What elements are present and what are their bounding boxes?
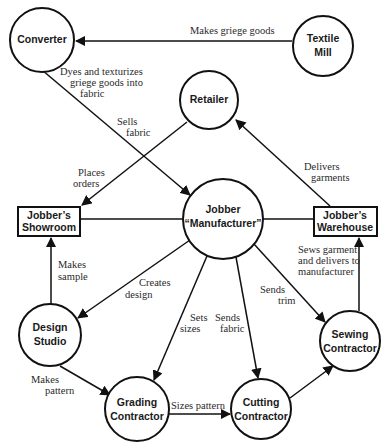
label-makes-pattern-line-2: pattern <box>45 385 75 396</box>
node-label: Retailer <box>190 93 229 105</box>
node-label-line-2: “Manufacturer” <box>184 217 261 229</box>
label-makes-griege-goods: Makes griege goods <box>190 25 275 36</box>
label-delivers-garments-line-1: Delivers <box>304 161 340 172</box>
edge-sells-fabric <box>42 70 190 195</box>
apparel-supply-chain-diagram: Converter Textile Mill Retailer Jobber “… <box>0 0 387 445</box>
label-sends-fabric-line-1: Sends <box>215 312 240 323</box>
label-sends-trim-line-2: trim <box>278 295 296 306</box>
edge-creates-design <box>78 240 190 318</box>
node-label-line-2: Contractor <box>323 342 377 354</box>
label-makes-sample-line-1: Makes <box>58 259 86 270</box>
label-sends-fabric-line-2: fabric <box>220 323 245 334</box>
label-sizes-pattern: Sizes pattern <box>171 400 226 411</box>
label-dyes-line-2: griege goods into <box>70 77 143 88</box>
node-textile-mill: Textile Mill <box>293 16 353 76</box>
label-creates-design-line-2: design <box>125 289 153 300</box>
node-jobbers-warehouse: Jobber’s Warehouse <box>314 207 377 236</box>
node-label-line-1: Jobber’s <box>27 209 71 221</box>
label-sets-sizes-line-2: sizes <box>180 323 200 334</box>
node-label: Converter <box>17 33 67 45</box>
label-sets-sizes-line-1: Sets <box>190 312 208 323</box>
node-label-line-2: Studio <box>34 335 67 347</box>
node-design-studio: Design Studio <box>19 304 81 366</box>
node-label-line-1: Grading <box>117 396 157 408</box>
node-label-line-1: Jobber’s <box>323 209 367 221</box>
label-places-orders-line-2: orders <box>73 178 99 189</box>
label-places-orders-line-1: Places <box>78 167 105 178</box>
node-converter: Converter <box>10 8 74 72</box>
node-label-line-1: Jobber <box>205 203 240 215</box>
node-label-line-2: Mill <box>314 46 332 58</box>
node-label-line-2: Contractor <box>234 410 288 422</box>
node-label-line-1: Design <box>32 321 67 333</box>
node-label-line-2: Contractor <box>110 410 164 422</box>
node-label-line-1: Textile <box>307 32 340 44</box>
label-sews-garment-line-2: and delivers to <box>298 255 360 266</box>
node-sewing-contractor: Sewing Contractor <box>320 311 380 371</box>
node-label-line-2: Showroom <box>22 221 76 233</box>
edge-cutting-to-sewing <box>290 366 333 398</box>
label-sews-garment-line-3: manufacturer <box>298 266 354 277</box>
node-grading-contractor: Grading Contractor <box>105 377 169 441</box>
label-creates-design-line-1: Creates <box>139 277 171 288</box>
label-makes-sample-line-2: sample <box>58 271 88 282</box>
label-sells-fabric-line-1: Sells <box>117 116 137 127</box>
label-makes-pattern-line-1: Makes <box>31 374 59 385</box>
node-label-line-1: Cutting <box>243 396 280 408</box>
node-jobber-manufacturer: Jobber “Manufacturer” <box>183 179 263 259</box>
node-label-line-2: Warehouse <box>317 221 373 233</box>
node-label-line-1: Sewing <box>332 328 369 340</box>
label-sews-garment-line-1: Sews garment <box>298 244 357 255</box>
node-cutting-contractor: Cutting Contractor <box>231 379 291 439</box>
label-sells-fabric-line-2: fabric <box>126 127 151 138</box>
label-sends-trim-line-1: Sends <box>260 284 285 295</box>
node-jobbers-showroom: Jobber’s Showroom <box>18 207 80 236</box>
label-delivers-garments-line-2: garments <box>311 172 350 183</box>
label-dyes-line-1: Dyes and texturizes <box>60 66 143 77</box>
node-retailer: Retailer <box>180 71 238 129</box>
label-dyes-line-3: fabric <box>80 88 105 99</box>
